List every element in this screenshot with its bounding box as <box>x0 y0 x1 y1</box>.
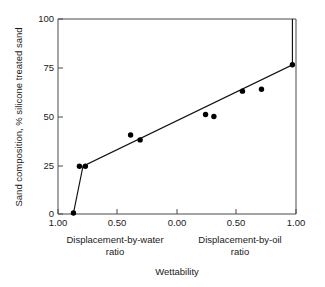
data-point <box>137 137 142 142</box>
x-tick-label-oil-050: 0.50 <box>227 217 246 228</box>
x-axis-sublabels: Displacement-by-water ratio Displacement… <box>66 234 281 257</box>
data-point <box>203 112 208 117</box>
chart-figure: 100 75 50 25 0 1.00 0.50 0.00 0.50 1.00 … <box>0 0 325 287</box>
y-axis-title: Sand composition, % silicone treated san… <box>13 27 24 206</box>
y-tick-label-100: 100 <box>38 13 54 24</box>
y-tick-marks <box>58 19 63 214</box>
x-tick-label-oil-100: 1.00 <box>287 217 306 228</box>
data-point <box>259 87 264 92</box>
y-tick-label-50: 50 <box>43 111 54 122</box>
axes-border <box>58 19 296 214</box>
data-point <box>83 164 88 169</box>
data-point <box>290 62 295 67</box>
x-tick-label-000: 0.00 <box>168 217 187 228</box>
data-point <box>240 88 245 93</box>
x-tick-label-water-050: 0.50 <box>108 217 127 228</box>
x-tick-labels: 1.00 0.50 0.00 0.50 1.00 <box>49 217 306 228</box>
data-points <box>71 62 295 216</box>
y-tick-label-25: 25 <box>43 160 54 171</box>
x-sublabel-oil-line2: ratio <box>231 246 249 257</box>
x-sublabel-water-line1: Displacement-by-water <box>66 234 163 245</box>
y-tick-labels: 100 75 50 25 0 <box>38 13 54 219</box>
plot-frame <box>58 19 296 214</box>
x-sublabel-oil-line1: Displacement-by-oil <box>198 234 281 245</box>
x-sublabel-water-line2: ratio <box>106 246 124 257</box>
x-tick-label-water-100: 1.00 <box>49 217 68 228</box>
y-tick-label-75: 75 <box>43 62 54 73</box>
x-axis-title: Wettability <box>155 266 199 277</box>
x-tick-marks <box>58 209 296 214</box>
trend-line <box>73 19 292 213</box>
data-point <box>211 114 216 119</box>
chart-svg: 100 75 50 25 0 1.00 0.50 0.00 0.50 1.00 … <box>0 0 325 287</box>
data-point <box>77 164 82 169</box>
data-point <box>71 210 76 215</box>
data-point <box>128 132 133 137</box>
